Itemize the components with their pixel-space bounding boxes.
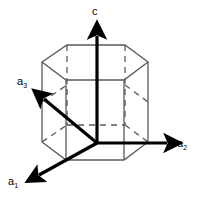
prism-hidden-edges [42, 45, 148, 142]
hidden-bottom-back-left [42, 125, 67, 142]
top-hexagon-face [42, 45, 148, 80]
hidden-basal-back-right [125, 85, 148, 102]
axis-a3-line [44, 99, 97, 143]
axis-label-c: c [92, 6, 98, 17]
axis-label-a1: a1 [8, 176, 18, 189]
axis-label-a1-subscript: 1 [14, 182, 18, 189]
axis-label-c-text: c [92, 5, 98, 17]
axis-a1-line [39, 143, 97, 175]
axis-label-a2: a2 [177, 138, 187, 151]
axis-label-a3: a3 [17, 76, 27, 89]
axis-label-a2-subscript: 2 [183, 144, 187, 151]
axis-label-a3-subscript: 3 [23, 82, 27, 89]
hidden-bottom-back-right [125, 125, 148, 142]
crystal-diagram-svg [0, 0, 199, 200]
hexagonal-crystal-figure: c a3 a1 a2 [0, 0, 199, 200]
